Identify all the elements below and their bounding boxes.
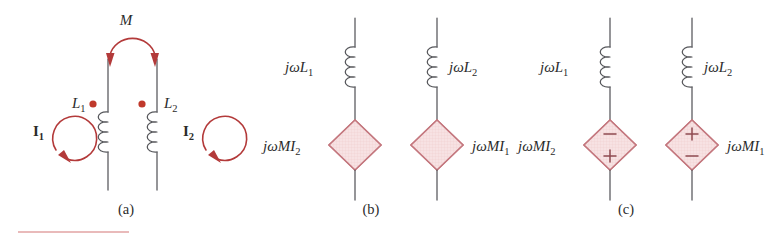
circuit-figure-canvas: M L1 L2 I1 I2 (a) (0, 0, 767, 243)
polarity-dot-right (138, 100, 145, 107)
panel-c-caption: (c) (618, 201, 634, 218)
panel-a-caption: (a) (118, 201, 134, 218)
figure-root: M L1 L2 I1 I2 (a) (0, 0, 767, 243)
figure-background (0, 0, 767, 243)
panel-b-caption: (b) (363, 201, 380, 218)
polarity-dot-left (89, 100, 96, 107)
mutual-inductance-label: M (119, 12, 134, 28)
